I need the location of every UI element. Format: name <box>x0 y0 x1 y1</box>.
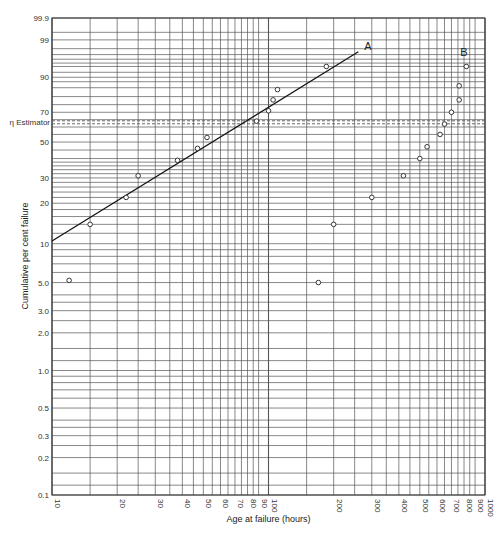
data-point-a <box>124 195 129 200</box>
svg-text:3.0: 3.0 <box>38 307 50 316</box>
svg-text:90: 90 <box>40 73 49 82</box>
data-point-a <box>136 173 141 178</box>
svg-text:0.2: 0.2 <box>38 454 50 463</box>
svg-text:800: 800 <box>465 499 474 513</box>
y-axis-ticks: 99.9999070503020105.03.02.01.00.50.30.20… <box>33 14 49 500</box>
series-a-fit-line <box>52 52 358 241</box>
data-point-b <box>418 156 423 161</box>
data-point-a <box>324 64 329 69</box>
grid <box>52 18 485 495</box>
svg-text:60: 60 <box>221 499 230 508</box>
data-point-a <box>275 87 280 92</box>
data-point-b <box>401 173 406 178</box>
svg-text:10: 10 <box>40 240 49 249</box>
svg-text:80: 80 <box>249 499 258 508</box>
svg-text:2.0: 2.0 <box>38 329 50 338</box>
svg-text:50: 50 <box>204 499 213 508</box>
data-point-a <box>205 135 210 140</box>
svg-text:0.3: 0.3 <box>38 432 50 441</box>
data-point-a <box>175 158 180 163</box>
data-point-a <box>271 98 276 103</box>
svg-text:50: 50 <box>40 138 49 147</box>
data-point-b <box>67 278 72 283</box>
data-point-b <box>331 222 336 227</box>
data-point-b <box>457 98 462 103</box>
svg-text:200: 200 <box>335 499 344 513</box>
data-point-b <box>457 84 462 89</box>
data-point-a <box>254 119 259 124</box>
svg-text:0.5: 0.5 <box>38 404 50 413</box>
svg-text:0.1: 0.1 <box>38 491 50 500</box>
data-point-a <box>88 222 93 227</box>
eta-estimator-label: η Estimator <box>10 118 51 127</box>
svg-text:20: 20 <box>118 499 127 508</box>
svg-text:100: 100 <box>270 499 279 513</box>
svg-text:20: 20 <box>40 199 49 208</box>
svg-text:1.0: 1.0 <box>38 367 50 376</box>
svg-text:5.0: 5.0 <box>38 279 50 288</box>
svg-text:99.9: 99.9 <box>33 14 49 23</box>
data-point-b <box>425 145 430 150</box>
x-axis-title: Age at failure (hours) <box>226 514 310 524</box>
data-points <box>67 64 469 285</box>
svg-text:600: 600 <box>438 499 447 513</box>
data-point-a <box>195 146 200 151</box>
svg-text:30: 30 <box>40 174 49 183</box>
data-point-b <box>369 195 374 200</box>
svg-text:400: 400 <box>400 499 409 513</box>
y-axis-title: Cumulative per cent failure <box>20 202 30 309</box>
svg-text:70: 70 <box>236 499 245 508</box>
series-b-label: B <box>460 46 467 58</box>
data-point-b <box>449 110 454 115</box>
data-point-a <box>266 108 271 113</box>
svg-text:900: 900 <box>476 499 485 513</box>
series-a-label: A <box>364 40 372 52</box>
svg-text:30: 30 <box>156 499 165 508</box>
svg-text:700: 700 <box>452 499 461 513</box>
svg-text:10: 10 <box>53 499 62 508</box>
svg-text:1000: 1000 <box>486 499 495 517</box>
weibull-chart: 99.9999070503020105.03.02.01.00.50.30.20… <box>0 0 498 543</box>
svg-text:99: 99 <box>40 36 49 45</box>
svg-text:70: 70 <box>40 108 49 117</box>
data-point-b <box>442 122 447 127</box>
svg-text:300: 300 <box>373 499 382 513</box>
svg-text:500: 500 <box>421 499 430 513</box>
data-point-b <box>316 280 321 285</box>
svg-text:90: 90 <box>260 499 269 508</box>
data-point-b <box>438 132 443 137</box>
svg-text:40: 40 <box>183 499 192 508</box>
data-point-b <box>464 64 469 69</box>
